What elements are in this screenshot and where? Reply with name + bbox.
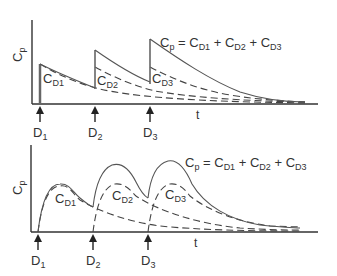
svg-text:D3: D3 xyxy=(143,125,157,142)
svg-text:D2: D2 xyxy=(86,253,100,270)
arrow-up-icon xyxy=(89,234,97,242)
svg-text:D1: D1 xyxy=(31,253,45,270)
bottom-label-cd3: CD3 xyxy=(165,187,186,204)
arrow-up-icon xyxy=(36,106,44,114)
top-x-label: t xyxy=(196,108,200,122)
top-cd3-curve xyxy=(150,67,305,102)
top-dose-arrow-d3: D3 xyxy=(143,106,157,142)
bottom-dose-arrow-d1: D1 xyxy=(31,234,45,270)
top-y-label: Cp xyxy=(10,48,27,62)
arrow-up-icon xyxy=(144,234,152,242)
top-dose-arrow-d1: D1 xyxy=(33,106,47,142)
superposition-diagram: Cp CD1 CD2 CD3 Cp = CD1 + CD2 + CD3 t D1 xyxy=(0,0,337,276)
top-dose-arrow-d2: D2 xyxy=(88,106,102,142)
bottom-y-label: Cp xyxy=(10,181,27,195)
bottom-dose-arrow-d2: D2 xyxy=(86,234,100,270)
svg-text:D3: D3 xyxy=(141,253,155,270)
svg-text:D2: D2 xyxy=(88,125,102,142)
bottom-panel: Cp CD1 CD2 CD3 Cp = CD1 + CD2 + CD3 t D1… xyxy=(10,145,318,270)
bottom-label-cd1: CD1 xyxy=(55,191,76,208)
arrow-up-icon xyxy=(34,234,42,242)
svg-text:D1: D1 xyxy=(33,125,47,142)
bottom-label-cd2: CD2 xyxy=(112,188,133,205)
top-panel: Cp CD1 CD2 CD3 Cp = CD1 + CD2 + CD3 t D1 xyxy=(10,20,318,142)
bottom-x-label: t xyxy=(194,236,198,250)
arrow-up-icon xyxy=(146,106,154,114)
top-equation: Cp = CD1 + CD2 + CD3 xyxy=(160,35,282,52)
arrow-up-icon xyxy=(91,106,99,114)
bottom-equation: Cp = CD1 + CD2 + CD3 xyxy=(185,155,307,172)
bottom-dose-arrow-d3: D3 xyxy=(141,234,155,270)
top-label-cd2: CD2 xyxy=(97,73,118,90)
